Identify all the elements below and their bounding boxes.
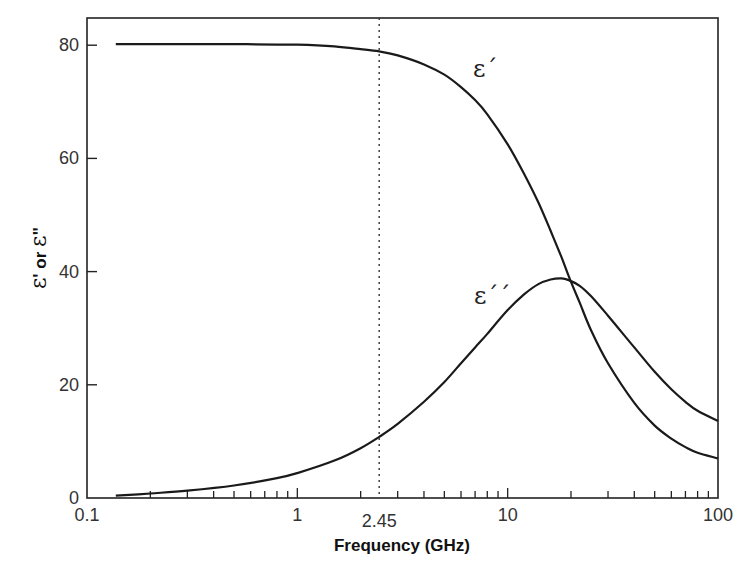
epsilon-double-prime-curve — [116, 278, 718, 495]
x-tick-label: 10 — [498, 505, 518, 525]
x-minor-ticks — [150, 488, 708, 498]
y-tick-label: 80 — [59, 35, 79, 55]
dielectric-spectrum-chart: 0.112.4510100 020406080 ε´ ε´´ Frequency… — [0, 0, 748, 580]
y-axis-title: ε' or ε" — [26, 227, 51, 289]
y-tick-label: 0 — [69, 488, 79, 508]
y-tick-label: 20 — [59, 375, 79, 395]
epsilon-prime-label: ε´ — [473, 55, 497, 83]
y-tick-label: 60 — [59, 148, 79, 168]
plot-frame — [87, 18, 718, 498]
x-tick-label: 0.1 — [74, 505, 99, 525]
x-axis-title: Frequency (GHz) — [334, 536, 470, 555]
x-tick-label: 100 — [703, 505, 733, 525]
x-tick-label: 2.45 — [362, 511, 397, 531]
x-tick-label: 1 — [292, 505, 302, 525]
y-ticks — [87, 45, 97, 385]
y-tick-labels: 020406080 — [59, 35, 79, 508]
epsilon-double-prime-label: ε´´ — [474, 282, 510, 310]
y-tick-label: 40 — [59, 262, 79, 282]
epsilon-prime-curve — [116, 44, 718, 458]
x-tick-labels: 0.112.4510100 — [74, 505, 733, 531]
